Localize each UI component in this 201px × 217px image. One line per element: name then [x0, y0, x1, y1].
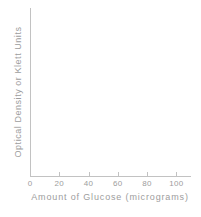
x-axis-line — [30, 176, 191, 177]
x-axis-tick-label: 20 — [55, 180, 65, 188]
x-axis-tick-label: 0 — [28, 180, 33, 188]
x-axis-tick — [176, 172, 177, 177]
x-axis-tick — [30, 172, 31, 177]
x-axis-tick-label: 80 — [142, 180, 152, 188]
x-axis-tick — [147, 172, 148, 177]
x-axis-tick — [59, 172, 60, 177]
chart-figure: Optical Density or Klett Units 020406080… — [0, 0, 201, 217]
x-axis-tick-label: 40 — [84, 180, 94, 188]
x-axis-tick — [89, 172, 90, 177]
x-axis-tick-label: 60 — [113, 180, 123, 188]
x-axis-title: Amount of Glucose (micrograms) — [31, 193, 189, 202]
plot-area — [31, 8, 191, 176]
x-axis-tick-label: 100 — [169, 180, 183, 188]
x-axis-tick — [118, 172, 119, 177]
y-axis-title: Optical Density or Klett Units — [14, 26, 23, 157]
